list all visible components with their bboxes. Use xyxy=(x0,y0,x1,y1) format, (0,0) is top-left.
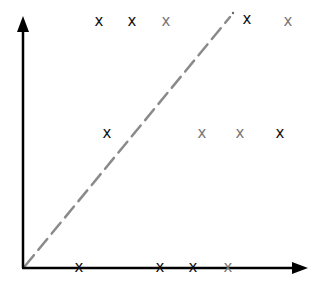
x-marker-icon: x xyxy=(281,14,295,30)
x-marker-icon: x xyxy=(100,126,114,142)
x-marker-icon: x xyxy=(221,260,235,276)
x-axis-arrow-icon xyxy=(292,262,308,274)
x-marker-icon: x xyxy=(186,260,200,276)
diagonal-end-dot xyxy=(232,12,234,14)
x-marker-icon: x xyxy=(273,126,287,142)
diagram-canvas xyxy=(0,0,320,286)
x-marker-icon: x xyxy=(72,260,86,276)
x-marker-icon: x xyxy=(125,14,139,30)
x-marker-icon: x xyxy=(92,14,106,30)
x-marker-icon: x xyxy=(153,260,167,276)
x-marker-icon: x xyxy=(159,14,173,30)
x-marker-icon: x xyxy=(240,12,254,28)
x-marker-icon: x xyxy=(233,126,247,142)
y-axis-arrow-icon xyxy=(17,16,29,32)
x-marker-icon: x xyxy=(195,126,209,142)
